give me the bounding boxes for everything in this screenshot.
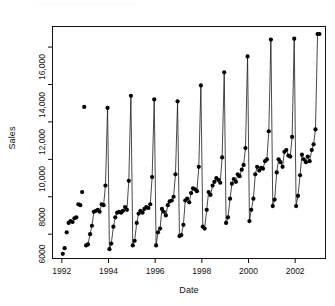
y-tick-label: 10,000 xyxy=(37,159,47,199)
chart-figure: Sales Date 6000800010,00012,00014,00016,… xyxy=(0,0,335,306)
y-tick-label: 8000 xyxy=(37,197,47,237)
x-tick-label: 1994 xyxy=(89,266,129,276)
x-tick-label: 1996 xyxy=(135,266,175,276)
y-tick-label: 16,000 xyxy=(37,47,47,87)
axis-box xyxy=(53,27,326,259)
x-tick-label: 2002 xyxy=(275,266,315,276)
y-tick-label: 14,000 xyxy=(37,85,47,125)
x-tick-label: 2000 xyxy=(229,266,269,276)
plot-area xyxy=(0,0,335,306)
x-tick-label: 1992 xyxy=(42,266,82,276)
y-tick-label: 12,000 xyxy=(37,122,47,162)
x-tick-label: 1998 xyxy=(182,266,222,276)
series-line-sales xyxy=(88,34,319,249)
series-points-sales xyxy=(61,32,322,256)
axis-ticks xyxy=(48,47,295,263)
x-axis-title: Date xyxy=(52,285,326,295)
scan-artifact xyxy=(38,2,134,6)
